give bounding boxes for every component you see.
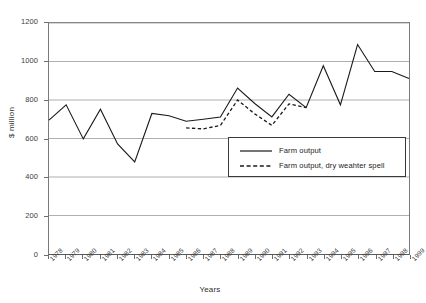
x-tick-label: 1985 [170,247,185,262]
x-tick-label: 1992 [290,247,305,262]
x-tick-label: 1980 [83,247,98,262]
x-tick-label: 1986 [187,247,202,262]
x-tick-label: 1984 [152,247,167,262]
x-tick-label: 1990 [256,247,271,262]
x-tick-label: 1993 [308,247,323,262]
x-tick-label: 1983 [135,247,150,262]
chart-legend: Farm output Farm output, dry weahter spe… [228,137,406,177]
legend-item-label: Farm output [279,146,321,155]
x-tick-label: 1996 [359,247,374,262]
x-tick-label: 1978 [49,247,64,262]
x-tick-label: 1987 [204,247,219,262]
x-tick-label: 1988 [221,247,236,262]
x-tick-label: 1991 [273,247,288,262]
x-tick-label: 1998 [394,247,409,262]
x-tick-label: 1989 [239,247,254,262]
x-tick-label: 1979 [66,247,81,262]
legend-item-label: Farm output, dry weahter spell [279,161,385,170]
x-tick-label: 1999 [411,247,426,262]
legend-item: Farm output, dry weahter spell [239,158,399,173]
x-tick-label: 1994 [325,247,340,262]
x-tick-label: 1981 [101,247,116,262]
legend-dashed-line-icon [239,161,273,171]
legend-solid-line-icon [239,146,273,156]
x-axis-title: Years [0,285,420,294]
legend-item: Farm output [239,143,399,158]
x-tick-label: 1997 [377,247,392,262]
x-tick-label: 1995 [342,247,357,262]
x-tick-label: 1982 [118,247,133,262]
